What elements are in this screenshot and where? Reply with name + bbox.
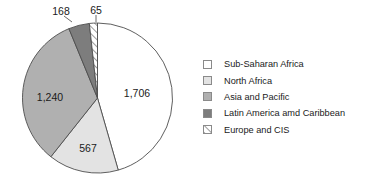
legend-label-north-africa: North Africa	[224, 76, 272, 86]
chart-legend: Sub-Saharan Africa North Africa Asia and…	[203, 56, 378, 138]
legend-swatch-north-africa	[203, 76, 212, 85]
hatch-swatch-icon	[204, 126, 211, 133]
legend-label-europe-and-cis: Europe and CIS	[224, 125, 289, 135]
legend-label-sub-saharan-africa: Sub-Saharan Africa	[224, 59, 304, 69]
legend-item-latin-america-amd-caribbean[interactable]: Latin America amd Caribbean	[203, 105, 378, 121]
slice-value-sub-saharan-africa: 1,706	[124, 87, 150, 99]
slice-value-europe-and-cis: 65	[90, 4, 102, 16]
legend-item-europe-and-cis[interactable]: Europe and CIS	[203, 122, 378, 138]
legend-swatch-sub-saharan-africa	[203, 60, 212, 69]
slice-value-north-africa: 567	[79, 142, 97, 154]
legend-swatch-europe-and-cis	[203, 125, 212, 134]
legend-swatch-latin-america-amd-caribbean	[203, 109, 212, 118]
legend-item-sub-saharan-africa[interactable]: Sub-Saharan Africa	[203, 56, 378, 72]
legend-item-asia-and-pacific[interactable]: Asia and Pacific	[203, 89, 378, 105]
slice-value-asia-and-pacific: 1,240	[37, 91, 63, 103]
legend-item-north-africa[interactable]: North Africa	[203, 72, 378, 88]
legend-label-asia-and-pacific: Asia and Pacific	[224, 92, 289, 102]
legend-swatch-asia-and-pacific	[203, 92, 212, 101]
pie-chart-figure: 1,706 567 1,240 168 65 Sub-Saharan Afric…	[0, 0, 378, 195]
legend-label-latin-america-amd-caribbean: Latin America amd Caribbean	[224, 108, 345, 118]
slice-value-latin-america-amd-caribbean: 168	[52, 5, 70, 17]
